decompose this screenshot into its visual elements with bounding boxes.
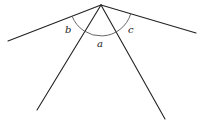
- ray-lower-right: [101, 5, 165, 119]
- label-a: a: [97, 38, 103, 49]
- ray-lower-left: [37, 5, 101, 110]
- label-c: c: [128, 24, 134, 35]
- angle-diagram: b a c: [0, 0, 202, 121]
- ray-left: [8, 5, 101, 41]
- ray-right: [101, 5, 196, 33]
- label-b: b: [65, 24, 71, 35]
- angle-arc: [72, 14, 131, 36]
